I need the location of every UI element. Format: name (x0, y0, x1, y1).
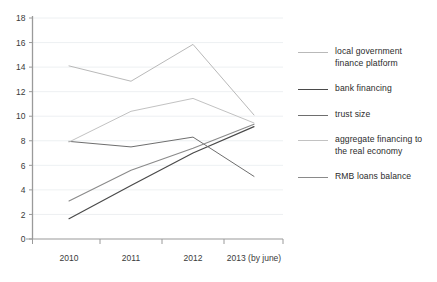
y-tick-label: 0 (21, 234, 26, 244)
y-tick-label: 2 (21, 210, 26, 220)
chart-figure: 0246810121416182010201120122013 (by june… (0, 0, 437, 282)
y-tick-label: 18 (16, 13, 26, 23)
legend-item[interactable]: aggregate financing to the real economy (298, 134, 437, 157)
y-tick-label: 16 (16, 38, 26, 48)
series-line (69, 137, 254, 176)
legend-line-swatch-icon (298, 136, 328, 145)
legend-item-label: trust size (335, 109, 370, 121)
legend-item-label: local government finance platform (335, 46, 402, 69)
chart-legend: local government finance platformbank fi… (298, 46, 437, 197)
y-tick-label: 4 (21, 185, 26, 195)
legend-item-label: RMB loans balance (335, 171, 411, 183)
series-line (69, 44, 254, 115)
legend-line-swatch-icon (298, 48, 328, 57)
legend-line-swatch-icon (298, 85, 328, 94)
y-tick-label: 10 (16, 111, 26, 121)
series-line (69, 124, 254, 201)
legend-line-swatch-icon (298, 111, 328, 120)
x-tick-label: 2013 (by june) (227, 253, 282, 263)
y-tick-label: 14 (16, 62, 26, 72)
x-axis-ticks: 2010201120122013 (by june) (33, 239, 284, 263)
legend-item[interactable]: trust size (298, 109, 437, 121)
y-tick-label: 6 (21, 161, 26, 171)
y-tick-label: 8 (21, 136, 26, 146)
data-series-group (69, 44, 254, 218)
x-tick-label: 2012 (184, 253, 203, 263)
y-axis-ticks: 024681012141618 (16, 13, 32, 244)
line-chart-svg: 0246810121416182010201120122013 (by june… (0, 0, 290, 282)
plot-area: 0246810121416182010201120122013 (by june… (0, 0, 290, 282)
legend-item[interactable]: local government finance platform (298, 46, 437, 69)
legend-item-label: aggregate financing to the real economy (335, 134, 422, 157)
gridlines (33, 18, 284, 214)
legend-item[interactable]: bank financing (298, 83, 437, 95)
y-tick-label: 12 (16, 87, 26, 97)
legend-line-swatch-icon (298, 173, 328, 182)
legend-item[interactable]: RMB loans balance (298, 171, 437, 183)
legend-item-label: bank financing (335, 83, 392, 95)
x-tick-label: 2011 (122, 253, 141, 263)
x-tick-label: 2010 (60, 253, 79, 263)
